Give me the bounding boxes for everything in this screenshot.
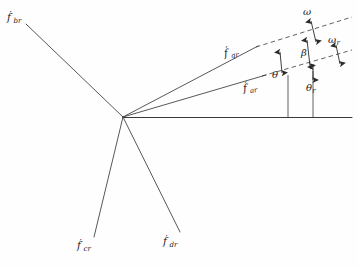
- label-f-cr: f′cr: [77, 240, 90, 251]
- label-omega-r-symbol: ω: [328, 34, 336, 45]
- label-f-cr-subscript: cr: [83, 245, 90, 253]
- arrow-beta: [307, 40, 310, 66]
- arrow-theta: [280, 52, 282, 73]
- arrow-omega: [311, 21, 316, 42]
- vector-angle-diagram: f′br f′qr f′ar f′cr f′dr ω β ωr θ θr: [0, 0, 358, 268]
- label-beta-symbol: β: [301, 47, 307, 58]
- label-beta: β: [301, 48, 307, 58]
- label-f-ar: f′ar: [242, 81, 257, 94]
- label-f-qr: f′qr: [223, 46, 239, 59]
- label-omega: ω: [303, 7, 311, 17]
- diagram-canvas: [0, 0, 358, 268]
- label-theta-r-subscript: r: [312, 87, 315, 95]
- label-f-dr-prime: ′: [165, 233, 167, 244]
- label-omega-symbol: ω: [303, 6, 311, 17]
- label-omega-r-subscript: r: [336, 39, 339, 47]
- label-f-qr-subscript: qr: [230, 51, 239, 60]
- label-theta-symbol: θ: [272, 69, 278, 80]
- label-f-dr-subscript: dr: [169, 241, 177, 249]
- label-theta-r: θr: [306, 83, 315, 93]
- label-f-br: f′br: [7, 12, 21, 23]
- label-f-br-prime: ′: [9, 9, 11, 20]
- label-f-ar-subscript: ar: [249, 86, 258, 95]
- line-f-dr: [123, 117, 180, 232]
- line-f-cr: [94, 117, 123, 237]
- label-f-cr-prime: ′: [79, 237, 81, 248]
- label-omega-r: ωr: [328, 35, 340, 45]
- label-f-br-subscript: br: [13, 17, 21, 25]
- label-theta: θ: [272, 70, 278, 80]
- line-f-br: [26, 24, 123, 117]
- label-f-dr: f′dr: [163, 236, 177, 247]
